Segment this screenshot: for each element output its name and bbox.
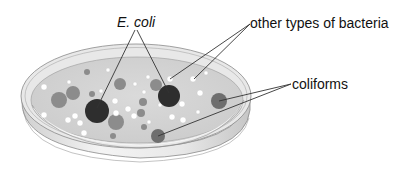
white-colony: [41, 84, 47, 90]
white-colony: [106, 68, 110, 72]
white-colony: [169, 114, 175, 120]
grey-colony: [51, 92, 67, 108]
label-ecoli: E. coli: [117, 15, 155, 29]
white-colony: [196, 110, 200, 114]
ecoli-colony: [85, 99, 109, 123]
ecoli-colony: [158, 85, 180, 107]
grey-colony: [114, 78, 126, 90]
white-colony: [190, 76, 196, 82]
grey-colony: [141, 124, 147, 130]
grey-colony: [84, 69, 90, 75]
label-other-bacteria: other types of bacteria: [250, 16, 389, 30]
white-colony: [67, 80, 71, 84]
white-colony: [112, 98, 118, 104]
white-colony: [81, 130, 87, 136]
white-colony: [204, 71, 208, 75]
white-colony: [133, 82, 137, 86]
grey-colony: [66, 86, 80, 100]
white-colony: [113, 110, 119, 116]
grey-colony: [139, 98, 147, 106]
white-colony: [41, 112, 47, 118]
white-colony: [77, 120, 83, 126]
grey-colony: [150, 79, 162, 91]
white-colony: [65, 117, 71, 123]
grey-colony: [137, 109, 145, 117]
grey-colony: [89, 91, 95, 97]
white-colony: [180, 117, 186, 123]
white-colony: [197, 90, 203, 96]
white-colony: [147, 120, 151, 124]
white-colony: [99, 89, 103, 93]
petri-dish-diagram: E. coli other types of bacteria coliform…: [0, 0, 413, 177]
white-colony: [146, 75, 150, 79]
white-colony: [131, 113, 137, 119]
white-colony: [72, 113, 78, 119]
label-coliforms: coliforms: [292, 77, 348, 91]
grey-colony: [110, 133, 116, 139]
white-colony: [142, 90, 146, 94]
grey-colony: [108, 114, 124, 130]
white-colony: [125, 106, 131, 112]
white-colony: [179, 101, 185, 107]
